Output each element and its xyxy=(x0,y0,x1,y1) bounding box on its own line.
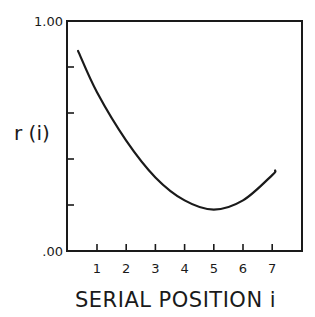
x-axis-ticks: 1234567 xyxy=(93,244,276,276)
x-tick-label: 7 xyxy=(268,261,276,276)
data-curve xyxy=(78,51,275,210)
plot-frame xyxy=(67,21,302,251)
y-axis-label: r (i) xyxy=(14,121,50,145)
x-tick-label: 2 xyxy=(122,261,130,276)
x-tick-label: 4 xyxy=(180,261,188,276)
x-axis-label: SERIAL POSITION i xyxy=(75,288,276,312)
y-axis-ticks xyxy=(67,67,74,205)
x-tick-label: 3 xyxy=(151,261,159,276)
x-tick-label: 6 xyxy=(239,261,247,276)
y-tick-label-bottom: .00 xyxy=(42,244,63,259)
y-tick-label-top: 1.00 xyxy=(34,14,63,29)
x-tick-label: 1 xyxy=(93,261,101,276)
x-tick-label: 5 xyxy=(210,261,218,276)
chart: 1234567 1.00 .00 r (i) SERIAL POSITION i xyxy=(0,0,315,317)
